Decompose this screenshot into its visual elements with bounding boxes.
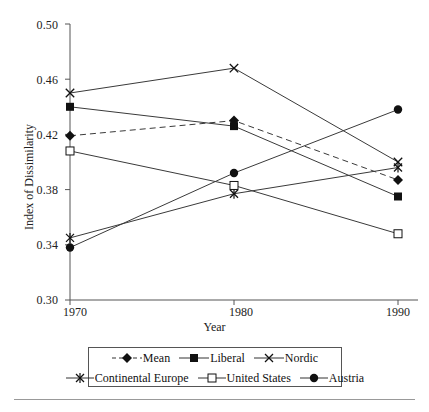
footer-divider bbox=[14, 399, 415, 400]
legend-label-austria: Austria bbox=[329, 372, 364, 384]
legend-label-united-states: United States bbox=[227, 372, 291, 384]
legend-label-mean: Mean bbox=[143, 352, 170, 364]
asterisk-icon bbox=[66, 371, 94, 385]
filled-circle-icon bbox=[300, 371, 328, 385]
series-nordic bbox=[66, 64, 402, 166]
y-axis-title: Index of Dissimilarity bbox=[22, 124, 37, 230]
legend-label-liberal: Liberal bbox=[210, 352, 245, 364]
cross-x-icon bbox=[254, 351, 284, 365]
legend-row-top: Mean Liberal Nordic bbox=[89, 348, 341, 368]
legend-label-continental-europe: Continental Europe bbox=[95, 372, 189, 384]
legend: Mean Liberal Nordic bbox=[88, 347, 342, 387]
ytick-label-1: 0.34 bbox=[14, 239, 58, 251]
xtick-label-1990: 1990 bbox=[368, 306, 428, 318]
open-square-icon bbox=[198, 371, 226, 385]
ytick-label-0: 0.30 bbox=[14, 294, 58, 306]
legend-item-continental-europe[interactable]: Continental Europe bbox=[66, 371, 189, 385]
legend-item-austria[interactable]: Austria bbox=[300, 371, 364, 385]
ytick-label-5: 0.50 bbox=[14, 19, 58, 31]
legend-item-mean[interactable]: Mean bbox=[112, 351, 170, 365]
filled-square-icon bbox=[179, 351, 209, 365]
legend-item-united-states[interactable]: United States bbox=[198, 371, 291, 385]
legend-item-nordic[interactable]: Nordic bbox=[254, 351, 318, 365]
legend-label-nordic: Nordic bbox=[285, 352, 318, 364]
figure-container: 0.30 0.34 0.38 0.42 0.46 0.50 1970 1980 … bbox=[0, 0, 429, 412]
legend-item-liberal[interactable]: Liberal bbox=[179, 351, 245, 365]
ytick-label-4: 0.46 bbox=[14, 74, 58, 86]
xtick-label-1980: 1980 bbox=[211, 306, 271, 318]
x-axis-title: Year bbox=[0, 320, 429, 335]
legend-row-bottom: Continental Europe United States Austria bbox=[89, 368, 341, 388]
xtick-label-1970: 1970 bbox=[45, 306, 105, 318]
filled-diamond-icon bbox=[112, 351, 142, 365]
